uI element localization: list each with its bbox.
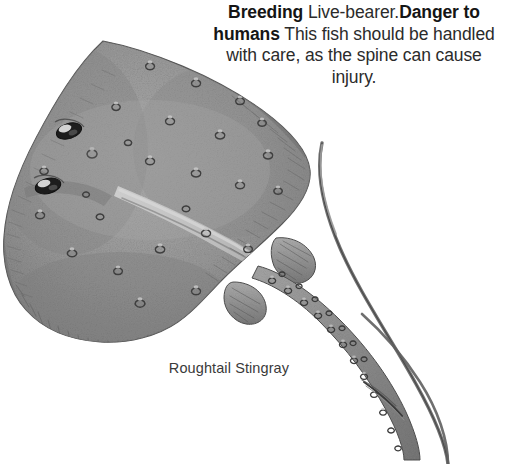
- illustration-caption: Roughtail Stingray: [148, 360, 310, 376]
- species-info-text: Breeding Live-bearer.Danger to humans Th…: [208, 2, 500, 88]
- stingray-info-page: Breeding Live-bearer.Danger to humans Th…: [0, 0, 526, 464]
- pelvic-fin-left: [224, 282, 266, 324]
- breeding-term: Breeding: [228, 2, 303, 22]
- breeding-description: Live-bearer.: [303, 2, 399, 22]
- breeding-paragraph: Breeding Live-bearer.Danger to humans Th…: [208, 2, 500, 88]
